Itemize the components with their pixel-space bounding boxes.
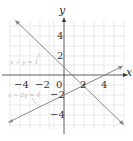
equation-label-1: x + y = 1 [10, 58, 38, 65]
x-tick-2: 2 [80, 80, 86, 90]
x-tick-4: 4 [101, 80, 107, 90]
y-tick-neg2: −2 [50, 90, 65, 100]
x-axis-label: x [126, 68, 132, 78]
x-tick-neg4: −4 [14, 80, 29, 90]
y-tick-2: 2 [57, 51, 63, 61]
y-axis-label: y [59, 6, 65, 16]
graph [0, 0, 133, 141]
x-tick-neg2: −2 [35, 80, 50, 90]
equation-label-2: x − 2y = 4 [8, 91, 40, 98]
y-tick-4: 4 [57, 31, 63, 41]
y-tick-neg4: −4 [50, 110, 65, 120]
